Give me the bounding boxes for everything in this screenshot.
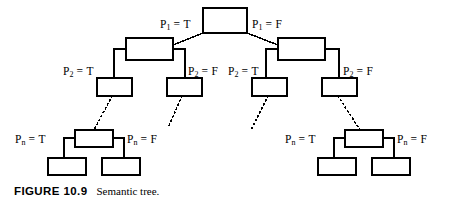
label-pn-false-right: Pn = F	[397, 134, 427, 147]
label-p1-false-eq: =	[262, 18, 275, 30]
node-ln-left-leaf-true	[48, 158, 86, 175]
label-p1-false-val: F	[276, 18, 282, 30]
label-pn-true-right-val: T	[309, 133, 316, 145]
label-p2-false-right-eq: =	[353, 65, 366, 77]
label-p2-true-right-val: T	[252, 65, 259, 77]
edge-dotted-l3d-to-ln-right	[338, 96, 360, 130]
edge-root-to-l2-left	[173, 33, 203, 45]
node-l3-c	[252, 78, 287, 96]
label-p2-false-left: P2 = F	[188, 66, 218, 79]
node-root	[203, 8, 247, 33]
node-l3-d	[322, 78, 357, 96]
label-pn-false-left-eq: =	[137, 133, 150, 145]
label-p2-true-right: P2 = T	[228, 66, 259, 79]
label-p2-false-left-val: F	[212, 65, 218, 77]
label-pn-true-left-val: T	[39, 133, 46, 145]
tree-graphic	[0, 0, 454, 201]
label-pn-true-right: Pn = T	[285, 134, 316, 147]
label-p1-true: P1 = T	[160, 19, 191, 32]
edge-l2left-to-l3-b	[173, 49, 185, 78]
label-p2-false-right: P2 = F	[343, 66, 373, 79]
edge-lnright-to-leaf-t	[334, 138, 345, 158]
node-l2-left	[126, 38, 173, 60]
edge-dotted-l3a-to-ln-left	[94, 96, 112, 130]
label-p1-false: P1 = F	[252, 19, 282, 32]
label-pn-true-left: Pn = T	[15, 134, 46, 147]
label-pn-false-left-val: F	[151, 133, 157, 145]
label-p2-false-left-eq: =	[198, 65, 211, 77]
node-ln-right-leaf-false	[372, 158, 410, 175]
edge-root-to-l2-right	[247, 33, 278, 45]
figure-semantic-tree: P1 = T P1 = F P2 = T P2 = F P2 = T P2 = …	[0, 0, 454, 201]
label-p1-true-val: T	[184, 18, 191, 30]
edge-lnleft-to-leaf-t	[64, 138, 75, 158]
label-p1-true-eq: =	[170, 18, 183, 30]
label-p2-true-left-eq: =	[73, 65, 86, 77]
edge-dotted-l3b-open	[168, 96, 182, 128]
label-pn-false-right-eq: =	[407, 133, 420, 145]
figure-number: FIGURE 10.9	[14, 185, 87, 197]
node-ln-right-parent	[345, 130, 383, 147]
node-ln-right-leaf-true	[318, 158, 356, 175]
label-p2-false-right-val: F	[367, 65, 373, 77]
node-l3-b	[167, 78, 202, 96]
edge-l2right-to-l3-d	[325, 49, 339, 78]
edge-l2right-to-l3-c	[266, 49, 278, 78]
label-pn-true-left-eq: =	[25, 133, 38, 145]
edge-lnright-to-leaf-f	[383, 138, 394, 158]
label-p2-true-left-val: T	[87, 65, 94, 77]
label-pn-false-right-val: F	[421, 133, 427, 145]
label-pn-true-right-eq: =	[295, 133, 308, 145]
label-p2-true-right-eq: =	[238, 65, 251, 77]
edge-lnleft-to-leaf-f	[113, 138, 124, 158]
figure-caption: FIGURE 10.9Semantic tree.	[14, 181, 159, 199]
node-l3-a	[97, 78, 132, 96]
figure-caption-text: Semantic tree.	[96, 185, 159, 197]
node-l2-right	[278, 38, 325, 60]
edge-dotted-l3c-open	[252, 96, 268, 128]
node-ln-left-leaf-false	[102, 158, 140, 175]
label-pn-false-left: Pn = F	[127, 134, 157, 147]
label-p2-true-left: P2 = T	[63, 66, 94, 79]
edge-l2left-left-stub	[114, 49, 126, 60]
node-ln-left-parent	[75, 130, 113, 147]
